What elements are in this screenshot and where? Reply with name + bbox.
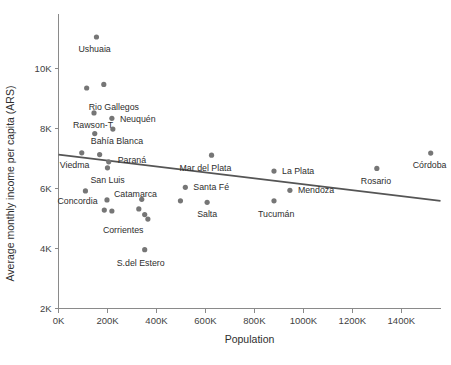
data-point-label: La Plata	[282, 166, 314, 176]
data-point	[145, 217, 150, 222]
data-point	[105, 165, 110, 170]
data-point	[97, 152, 102, 157]
data-point	[79, 150, 84, 155]
data-point	[139, 197, 144, 202]
data-point	[102, 208, 107, 213]
data-point-label: Mar del Plata	[180, 163, 232, 173]
data-points: UshuaiaRio GallegosRawson-TNeuquénBahía …	[57, 34, 446, 267]
x-axis-title: Population	[225, 333, 275, 345]
data-point	[101, 82, 106, 87]
data-point	[84, 85, 89, 90]
data-point	[271, 169, 276, 174]
axes: 0K200K400K600K800K1000K1200K1400K2K4K6K8…	[35, 14, 441, 326]
data-point-label: Concordia	[57, 196, 97, 206]
chart-canvas: 0K200K400K600K800K1000K1200K1400K2K4K6K8…	[0, 0, 451, 365]
data-point	[178, 198, 183, 203]
data-point-label: Salta	[197, 209, 217, 219]
data-point-label: Rio Gallegos	[89, 102, 140, 112]
y-tick-label: 4K	[40, 243, 52, 254]
data-point-label: Tucumán	[258, 209, 294, 219]
data-point	[109, 208, 114, 213]
data-point-label: Córdoba	[413, 160, 447, 170]
data-point	[94, 34, 99, 39]
data-point	[428, 151, 433, 156]
x-tick-label: 1200K	[339, 315, 367, 326]
data-point-label: Catamarca	[114, 189, 157, 199]
data-point	[374, 166, 379, 171]
data-point	[183, 185, 188, 190]
data-point	[109, 116, 114, 121]
data-point-label: Ushuaia	[78, 44, 110, 54]
data-point	[287, 188, 292, 193]
x-tick-label: 1000K	[290, 315, 318, 326]
data-point-label: S.del Estero	[117, 258, 165, 268]
data-point-label: Corrientes	[103, 225, 144, 235]
data-point	[142, 247, 147, 252]
data-point	[83, 188, 88, 193]
y-axis-title: Average monthly income per capita (ARS)	[4, 86, 16, 282]
data-point-label: Mendoza	[298, 185, 334, 195]
x-tick-label: 1400K	[388, 315, 416, 326]
y-tick-label: 10K	[35, 63, 53, 74]
data-point-label: Rosario	[361, 176, 391, 186]
data-point	[106, 159, 111, 164]
x-tick-label: 200K	[96, 315, 119, 326]
data-point-label: Rawson-T	[73, 120, 114, 130]
data-point-label: Santa Fé	[193, 182, 229, 192]
data-point-label: San Luis	[90, 175, 125, 185]
data-point	[142, 212, 147, 217]
data-point-label: Paraná	[118, 155, 146, 165]
x-tick-label: 0K	[53, 315, 65, 326]
data-point-label: Viedma	[60, 160, 90, 170]
data-point	[104, 197, 109, 202]
data-point	[91, 110, 96, 115]
y-tick-label: 8K	[40, 123, 52, 134]
data-point	[110, 127, 115, 132]
scatter-chart: 0K200K400K600K800K1000K1200K1400K2K4K6K8…	[0, 0, 451, 365]
y-tick-label: 2K	[40, 303, 52, 314]
x-tick-label: 800K	[243, 315, 266, 326]
data-point-label: Neuquén	[120, 114, 156, 124]
data-point	[136, 206, 141, 211]
data-point-label: Bahía Blanca	[91, 136, 143, 146]
data-point	[271, 198, 276, 203]
y-tick-label: 6K	[40, 183, 52, 194]
x-tick-label: 400K	[145, 315, 168, 326]
x-tick-label: 600K	[194, 315, 217, 326]
data-point	[209, 153, 214, 158]
data-point	[205, 200, 210, 205]
